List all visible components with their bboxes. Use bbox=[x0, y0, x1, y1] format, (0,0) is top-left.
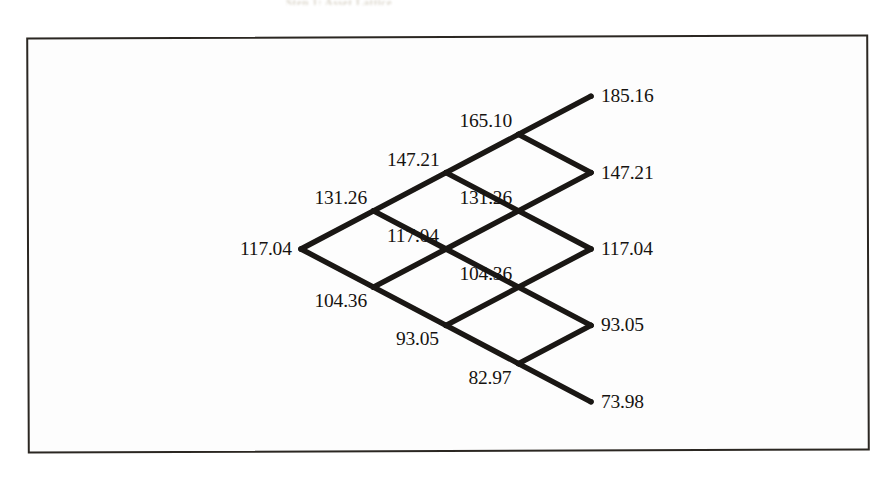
figure-page: Step 1: Asset Lattice 117.04131.26104.36… bbox=[0, 0, 896, 483]
caption-remnant-text: Step 1: Asset Lattice bbox=[286, 0, 436, 5]
figure-border-frame bbox=[26, 34, 870, 453]
